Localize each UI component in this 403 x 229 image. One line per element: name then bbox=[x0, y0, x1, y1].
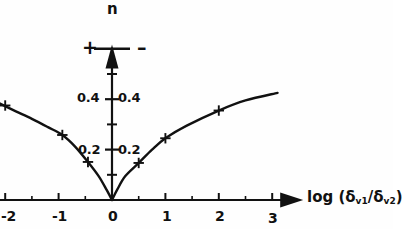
x-axis-label: log (δv1/δv2) bbox=[307, 190, 403, 206]
x-tick-label-5: 3 bbox=[268, 211, 277, 225]
y-axis-symbol: n bbox=[107, 2, 118, 17]
x-tick-label-2: 0 bbox=[108, 209, 117, 223]
x-axis-label-denominator-sub: v2 bbox=[384, 196, 396, 206]
x-axis-arrow bbox=[280, 193, 303, 208]
x-tick-label-1: -1 bbox=[52, 209, 67, 223]
sign-plus-label: + bbox=[82, 38, 98, 57]
x-axis-label-suffix: ) bbox=[396, 188, 403, 206]
x-tick-label-3: 1 bbox=[162, 209, 171, 223]
y-tick-label-left-1: 0.4 bbox=[77, 91, 99, 104]
x-axis-label-numerator-sub: v1 bbox=[356, 196, 368, 206]
sign-minus-label: – bbox=[137, 38, 147, 57]
x-axis-label-prefix: log ( bbox=[307, 188, 345, 206]
y-tick-label-right-0: 0.2 bbox=[118, 143, 140, 156]
y-tick-label-right-1: 0.4 bbox=[118, 91, 140, 104]
y-tick-label-left-0: 0.2 bbox=[78, 143, 100, 156]
x-axis-label-numerator: δ bbox=[345, 188, 355, 206]
x-tick-label-0: -2 bbox=[1, 209, 16, 223]
x-axis-label-denominator: δ bbox=[373, 188, 383, 206]
x-tick-label-4: 2 bbox=[215, 209, 224, 223]
data-point-marker bbox=[214, 105, 224, 115]
